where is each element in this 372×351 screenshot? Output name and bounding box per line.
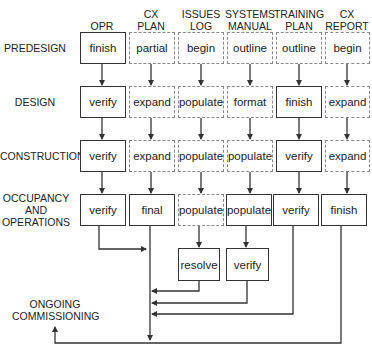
arrow-resolve-to-trunk	[152, 281, 199, 291]
column-header-line1: TRAINING	[269, 8, 329, 20]
cell-construction-training-plan[interactable]: verify	[276, 140, 322, 172]
column-header-line1: CX	[126, 8, 176, 20]
cell-occupancy-training-plan[interactable]: verify	[273, 194, 319, 226]
cell-construction-cx-report[interactable]: expand	[325, 140, 370, 172]
column-header-line1: CX	[322, 8, 372, 20]
ongoing-line2: COMMISSIONING	[12, 310, 98, 322]
row-label-line2: AND	[0, 204, 72, 216]
cell-design-cx-report[interactable]: expand	[325, 86, 370, 118]
arrow-opr-to-trunk	[99, 225, 146, 249]
column-header-training-plan: TRAINING PLAN	[269, 8, 329, 32]
cell-construction-opr[interactable]: verify	[80, 140, 126, 172]
arrow-training-to-trunk	[152, 225, 293, 314]
cell-construction-cx-plan[interactable]: expand	[129, 140, 175, 172]
row-label-design: DESIGN	[0, 96, 70, 108]
cell-predesign-cx-report[interactable]: begin	[325, 32, 370, 64]
cell-construction-issues-log[interactable]: populate	[178, 140, 224, 172]
column-header-cx-plan: CX PLAN	[126, 8, 176, 32]
cell-design-issues-log[interactable]: populate	[178, 86, 224, 118]
ongoing-commissioning-label: ONGOING COMMISSIONING	[12, 298, 98, 322]
column-header-opr: OPR	[77, 8, 127, 32]
resolve-box[interactable]: resolve	[178, 248, 220, 281]
row-label-construction: CONSTRUCTION	[0, 150, 78, 162]
column-header-line2: OPR	[77, 20, 127, 32]
cell-design-opr[interactable]: verify	[80, 86, 126, 118]
row-label-predesign: PREDESIGN	[0, 42, 70, 54]
column-header-cx-report: CX REPORT	[322, 8, 372, 32]
cell-occupancy-opr[interactable]: verify	[80, 194, 126, 226]
cell-design-systems-manual[interactable]: format	[227, 86, 273, 118]
cell-occupancy-systems-manual[interactable]: populate	[226, 194, 272, 226]
column-header-line2: REPORT	[322, 20, 372, 32]
cell-occupancy-cx-plan[interactable]: final	[129, 194, 175, 226]
row-label-occupancy-operations: OCCUPANCY AND OPERATIONS	[0, 192, 72, 228]
cell-occupancy-cx-report[interactable]: finish	[321, 194, 367, 226]
ongoing-line1: ONGOING	[12, 298, 98, 310]
row-label-line3: OPERATIONS	[0, 216, 72, 228]
column-header-line2: PLAN	[126, 20, 176, 32]
cell-predesign-training-plan[interactable]: outline	[276, 32, 322, 64]
column-header-line1	[77, 8, 127, 20]
verify-box[interactable]: verify	[226, 248, 269, 281]
cell-design-training-plan[interactable]: finish	[276, 86, 322, 118]
column-header-line2: PLAN	[269, 20, 329, 32]
row-label-line1: OCCUPANCY	[0, 192, 72, 204]
cell-construction-systems-manual[interactable]: populate	[227, 140, 273, 172]
cell-predesign-cx-plan[interactable]: partial	[129, 32, 175, 64]
cell-predesign-issues-log[interactable]: begin	[178, 32, 224, 64]
cell-predesign-systems-manual[interactable]: outline	[227, 32, 273, 64]
cell-design-cx-plan[interactable]: expand	[129, 86, 175, 118]
arrow-cxreport-to-ongoing	[55, 225, 341, 343]
cell-occupancy-issues-log[interactable]: populate	[178, 194, 224, 226]
cell-predesign-opr[interactable]: finish	[80, 32, 126, 64]
